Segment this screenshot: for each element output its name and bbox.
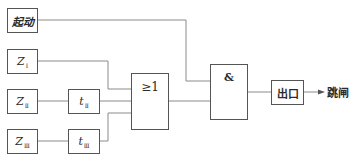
t2-main: t <box>79 95 83 108</box>
z3-label: ZⅢ <box>15 135 29 149</box>
z2-label: ZⅡ <box>16 95 29 109</box>
trip-result-label: 跳闸 <box>327 84 349 100</box>
z3-main: Z <box>15 135 23 148</box>
and-gate-block: & <box>210 64 248 120</box>
t2-block: tⅡ <box>68 89 100 114</box>
and-gate-label: & <box>224 71 234 84</box>
z1-main: Z <box>17 55 25 68</box>
wire-z1-to-or <box>38 61 131 89</box>
start-block: 起动 <box>7 8 38 33</box>
or-gate-block: ≥1 <box>131 73 169 130</box>
t2-subscript: Ⅱ <box>85 102 89 109</box>
z2-main: Z <box>16 95 24 108</box>
z3-block: ZⅢ <box>7 129 38 154</box>
output-block: 出口 <box>271 80 304 105</box>
wire-start-to-and <box>38 20 210 81</box>
or-gate-label: ≥1 <box>141 80 159 94</box>
z2-subscript: Ⅱ <box>25 102 29 109</box>
t3-label: tⅢ <box>78 135 89 149</box>
t3-block: tⅢ <box>68 129 100 154</box>
start-label: 起动 <box>12 13 34 29</box>
wire-t3-to-or <box>100 113 131 141</box>
arrow-head-icon <box>318 90 325 95</box>
z1-block: ZⅠ <box>7 49 38 74</box>
t2-label: tⅡ <box>79 95 89 109</box>
z1-label: ZⅠ <box>17 55 28 69</box>
t3-main: t <box>78 135 82 148</box>
z1-subscript: Ⅰ <box>26 62 28 69</box>
z2-block: ZⅡ <box>7 89 38 114</box>
z3-subscript: Ⅲ <box>24 142 30 149</box>
output-label: 出口 <box>277 85 299 101</box>
t3-subscript: Ⅲ <box>84 142 90 149</box>
